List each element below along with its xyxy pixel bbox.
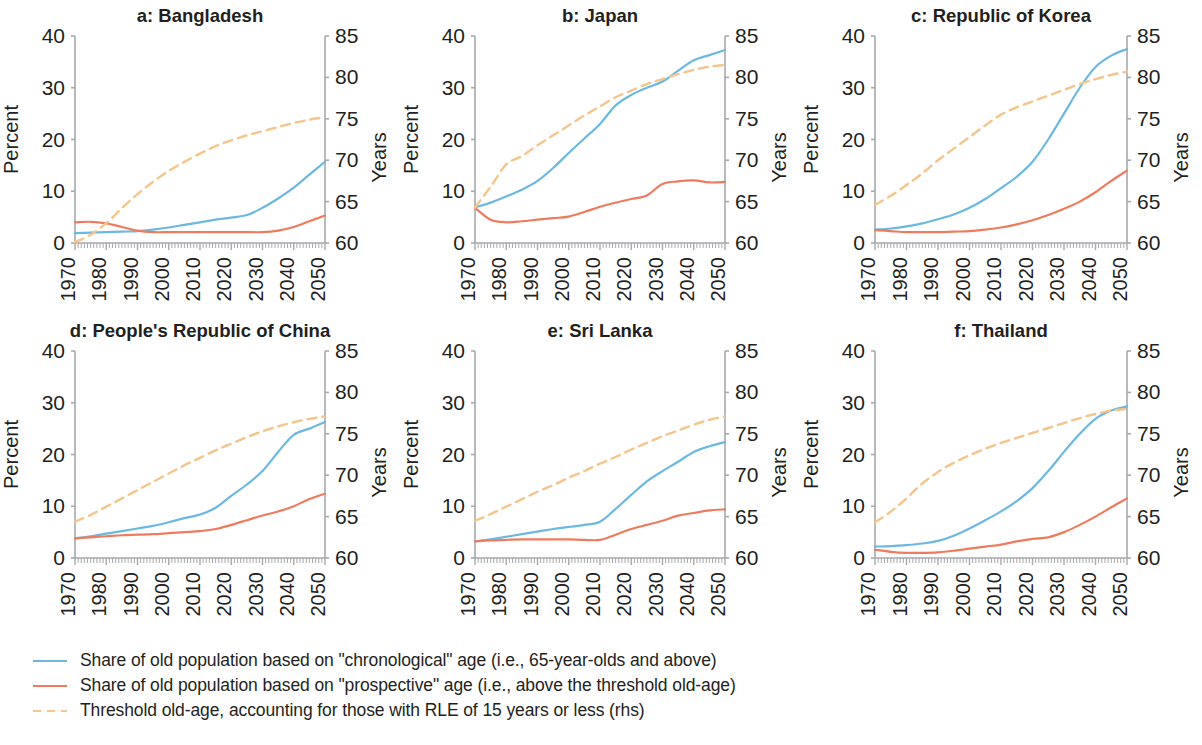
series-line-threshold — [75, 117, 325, 242]
x-axis-tick-label: 2020 — [213, 572, 235, 617]
right-axis-tick-label: 60 — [1137, 546, 1160, 569]
x-axis-tick-label: 2010 — [182, 257, 204, 302]
x-axis-tick-label: 2050 — [307, 257, 329, 302]
x-axis-tick-label: 2030 — [245, 257, 267, 302]
figure-root: a: Bangladesh010203040606570758085197019… — [0, 0, 1202, 745]
right-axis-tick-label: 70 — [1137, 148, 1160, 171]
right-axis-tick-label: 80 — [1137, 380, 1160, 403]
right-axis-tick-label: 60 — [1137, 231, 1160, 254]
chart-panel-e: e: Sri Lanka0102030406065707580851970198… — [400, 315, 800, 630]
left-axis-tick-label: 10 — [42, 179, 65, 202]
x-axis-tick-label: 2050 — [1109, 257, 1131, 302]
left-axis-tick-label: 10 — [42, 494, 65, 517]
right-axis-tick-label: 70 — [335, 148, 358, 171]
left-axis-tick-label: 20 — [842, 128, 865, 151]
right-axis-tick-label: 85 — [735, 339, 758, 362]
x-axis-tick-label: 2000 — [151, 572, 173, 617]
left-axis-tick-label: 0 — [853, 231, 865, 254]
left-axis-tick-label: 0 — [53, 546, 65, 569]
x-axis-tick-label: 1980 — [889, 572, 911, 617]
right-axis-tick-label: 70 — [735, 463, 758, 486]
x-axis-tick-label: 2020 — [613, 572, 635, 617]
left-axis-tick-label: 0 — [453, 231, 465, 254]
panel-title: d: People's Republic of China — [70, 320, 331, 341]
x-axis-minor-ticks — [75, 558, 325, 565]
right-axis-tick-label: 80 — [735, 65, 758, 88]
x-axis-tick-label: 2040 — [1078, 257, 1100, 302]
series-line-threshold — [875, 409, 1127, 522]
right-axis-tick-label: 70 — [735, 148, 758, 171]
right-axis-tick-label: 85 — [735, 24, 758, 47]
left-axis-title: Percent — [400, 105, 422, 174]
series-line-threshold — [475, 416, 725, 520]
legend-item-threshold: Threshold old-age, accounting for those … — [0, 698, 1202, 723]
x-axis-tick-label: 1970 — [857, 572, 879, 617]
left-axis-tick-label: 10 — [842, 494, 865, 517]
left-axis-tick-label: 30 — [442, 76, 465, 99]
right-axis-tick-label: 80 — [335, 65, 358, 88]
x-axis-tick-label: 1980 — [488, 572, 510, 617]
x-axis-tick-label: 1970 — [57, 572, 79, 617]
left-axis-tick-label: 20 — [442, 443, 465, 466]
legend-label-threshold: Threshold old-age, accounting for those … — [80, 700, 645, 721]
right-axis-tick-label: 80 — [335, 380, 358, 403]
panel-title: e: Sri Lanka — [548, 320, 654, 341]
x-axis-tick-label: 2040 — [676, 572, 698, 617]
right-axis-tick-label: 65 — [1137, 505, 1160, 528]
left-axis-tick-label: 20 — [42, 128, 65, 151]
x-axis-tick-label: 2010 — [582, 257, 604, 302]
left-axis-tick-label: 0 — [853, 546, 865, 569]
x-axis-tick-label: 2040 — [276, 572, 298, 617]
right-axis-tick-label: 70 — [335, 463, 358, 486]
series-line-threshold — [75, 416, 325, 521]
x-axis-tick-label: 1970 — [57, 257, 79, 302]
x-axis-tick-label: 2020 — [613, 257, 635, 302]
x-axis-tick-label: 2010 — [983, 257, 1005, 302]
right-axis-tick-label: 65 — [735, 190, 758, 213]
right-axis-tick-label: 65 — [735, 505, 758, 528]
x-axis-tick-label: 2010 — [983, 572, 1005, 617]
left-axis-title: Percent — [0, 420, 22, 489]
chart-panel-f: f: Thailand01020304060657075808519701980… — [800, 315, 1202, 630]
x-axis-tick-label: 2040 — [1078, 572, 1100, 617]
figure-legend: Share of old population based on "chrono… — [0, 648, 1202, 745]
x-axis-tick-label: 2030 — [1046, 572, 1068, 617]
x-axis-tick-label: 2050 — [1109, 572, 1131, 617]
x-axis-tick-label: 2000 — [151, 257, 173, 302]
left-axis-tick-label: 40 — [442, 24, 465, 47]
left-axis-title: Percent — [400, 420, 422, 489]
right-axis-tick-label: 60 — [335, 231, 358, 254]
right-axis-tick-label: 85 — [1137, 339, 1160, 362]
left-axis-tick-label: 40 — [842, 24, 865, 47]
left-axis-tick-label: 30 — [842, 76, 865, 99]
legend-swatch-chronological — [33, 654, 67, 668]
x-axis-tick-label: 2010 — [582, 572, 604, 617]
panel-title: f: Thailand — [954, 320, 1048, 341]
series-line-prospective — [475, 180, 725, 222]
left-axis-title: Percent — [0, 105, 22, 174]
left-axis-tick-label: 40 — [442, 339, 465, 362]
x-axis-tick-label: 2020 — [1015, 572, 1037, 617]
right-axis-tick-label: 85 — [335, 339, 358, 362]
left-axis-tick-label: 10 — [442, 179, 465, 202]
legend-item-chronological: Share of old population based on "chrono… — [0, 648, 1202, 673]
x-axis-tick-label: 1990 — [120, 257, 142, 302]
legend-label-chronological: Share of old population based on "chrono… — [80, 650, 717, 671]
panel-title: b: Japan — [562, 5, 638, 26]
series-line-chronological — [475, 50, 725, 207]
right-axis-tick-label: 65 — [335, 190, 358, 213]
right-axis-tick-label: 75 — [735, 107, 758, 130]
x-axis-tick-label: 2030 — [1046, 257, 1068, 302]
x-axis-tick-label: 2000 — [551, 257, 573, 302]
x-axis-tick-label: 2030 — [645, 572, 667, 617]
series-line-chronological — [475, 442, 725, 541]
x-axis-tick-label: 2000 — [952, 572, 974, 617]
series-line-chronological — [75, 162, 325, 233]
chart-panel-b: b: Japan01020304060657075808519701980199… — [400, 0, 800, 315]
left-axis-tick-label: 30 — [442, 391, 465, 414]
panel-title: c: Republic of Korea — [911, 5, 1092, 26]
right-axis-tick-label: 60 — [735, 546, 758, 569]
x-axis-tick-label: 2050 — [707, 257, 729, 302]
left-axis-tick-label: 0 — [53, 231, 65, 254]
chart-panel-c: c: Republic of Korea01020304060657075808… — [800, 0, 1202, 315]
